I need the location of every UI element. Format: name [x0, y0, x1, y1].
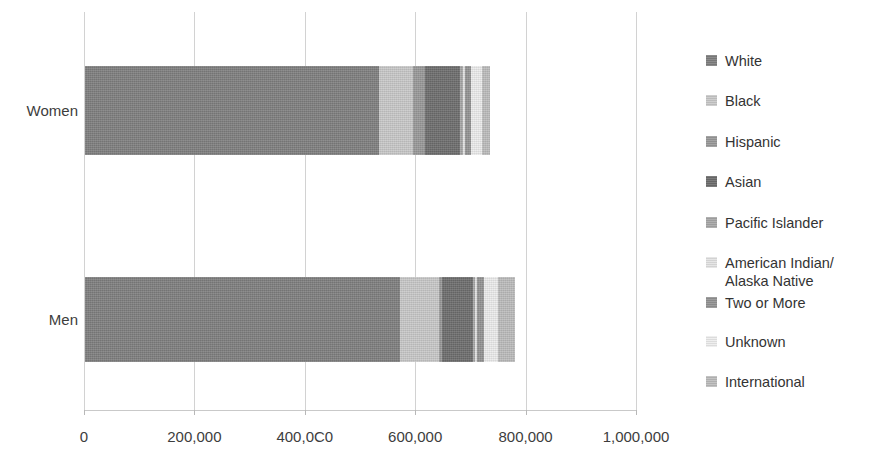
bar-segment-international[interactable] — [482, 66, 490, 155]
legend-swatch-icon — [706, 176, 717, 187]
legend-swatch-icon — [706, 217, 717, 228]
legend-swatch-icon — [706, 55, 717, 66]
legend-item-international[interactable]: International — [706, 373, 805, 391]
legend-item-two-or-more[interactable]: Two or More — [706, 294, 806, 312]
bar-segment-hispanic[interactable] — [413, 66, 425, 155]
x-tick-label: 0 — [80, 428, 88, 445]
legend-item-american-indian[interactable]: American Indian/ Alaska Native — [706, 254, 834, 290]
stacked-bar-chart: 0200,000400,0C0600,000800,0001,000,000 W… — [0, 0, 873, 459]
legend-label: American Indian/ Alaska Native — [725, 254, 834, 290]
bar-segment-black[interactable] — [400, 277, 439, 362]
x-tick-mark — [84, 410, 85, 415]
bar-segment-black[interactable] — [379, 66, 414, 155]
legend-swatch-icon — [706, 95, 717, 106]
legend-item-pacific-islander[interactable]: Pacific Islander — [706, 214, 823, 232]
stacked-bar-men[interactable] — [85, 277, 636, 362]
gridline — [636, 12, 637, 410]
x-tick-mark — [526, 410, 527, 415]
x-tick-label: 600,000 — [388, 428, 442, 445]
legend-item-hispanic[interactable]: Hispanic — [706, 133, 781, 151]
x-tick-mark — [636, 410, 637, 415]
legend-label: Pacific Islander — [725, 214, 823, 232]
bar-segment-unknown[interactable] — [484, 277, 498, 362]
bar-segment-unknown[interactable] — [471, 66, 482, 155]
x-axis-line — [84, 410, 636, 411]
legend-label: Hispanic — [725, 133, 781, 151]
legend-label: Unknown — [725, 333, 785, 351]
legend-label: Two or More — [725, 294, 806, 312]
x-tick-mark — [194, 410, 195, 415]
legend-item-unknown[interactable]: Unknown — [706, 333, 785, 351]
category-label-men: Men — [49, 311, 78, 328]
legend-swatch-icon — [706, 297, 717, 308]
legend-item-white[interactable]: White — [706, 52, 762, 70]
legend-item-asian[interactable]: Asian — [706, 173, 761, 191]
legend-swatch-icon — [706, 257, 717, 268]
plot-area — [84, 12, 636, 410]
bar-segment-asian[interactable] — [442, 277, 472, 362]
stacked-bar-women[interactable] — [85, 66, 636, 155]
x-tick-label: 400,0C0 — [276, 428, 333, 445]
bar-segment-asian[interactable] — [425, 66, 460, 155]
bar-segment-white[interactable] — [85, 277, 400, 362]
x-tick-label: 800,000 — [498, 428, 552, 445]
legend-label: International — [725, 373, 805, 391]
legend-label: Black — [725, 92, 760, 110]
legend-swatch-icon — [706, 376, 717, 387]
x-tick-label: 200,000 — [167, 428, 221, 445]
x-tick-mark — [415, 410, 416, 415]
legend-label: White — [725, 52, 762, 70]
bar-segment-white[interactable] — [85, 66, 379, 155]
x-tick-mark — [305, 410, 306, 415]
legend-label: Asian — [725, 173, 761, 191]
bar-segment-two-or-more[interactable] — [477, 277, 484, 362]
legend-item-black[interactable]: Black — [706, 92, 760, 110]
legend-swatch-icon — [706, 136, 717, 147]
legend-swatch-icon — [706, 336, 717, 347]
bar-segment-international[interactable] — [498, 277, 515, 362]
x-tick-label: 1,000,000 — [603, 428, 670, 445]
category-label-women: Women — [27, 102, 78, 119]
